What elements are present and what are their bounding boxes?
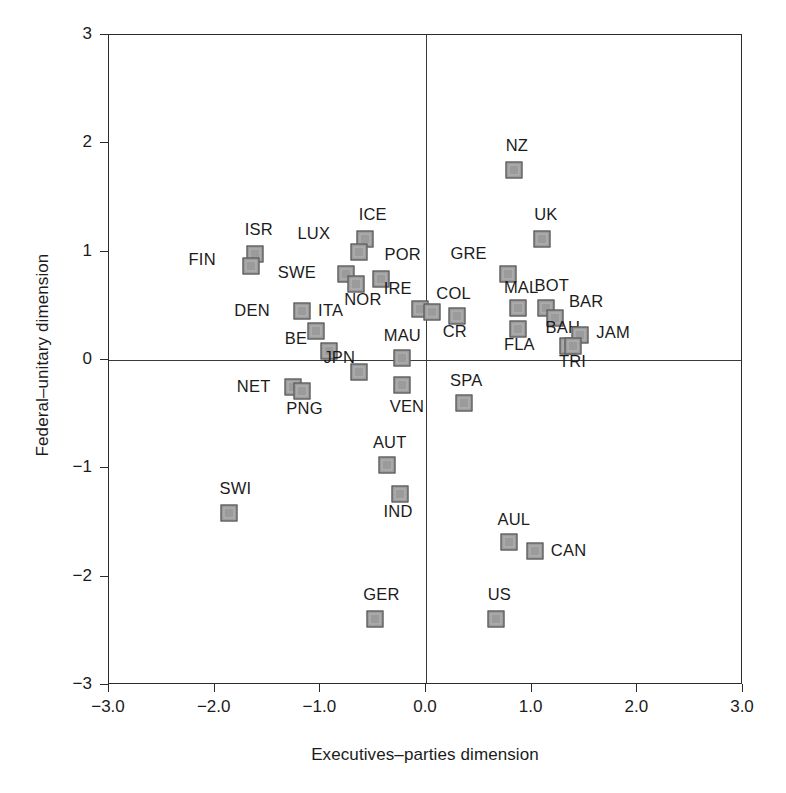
data-point-label: SPA — [450, 371, 482, 390]
data-point-marker — [456, 395, 473, 412]
x-axis-tick — [108, 684, 109, 692]
y-axis-tick-label: 3 — [32, 24, 92, 44]
data-point-label: JAM — [596, 323, 630, 342]
data-point-label: CR — [443, 322, 467, 341]
x-axis-tick — [742, 684, 743, 692]
data-point-label: NZ — [506, 136, 528, 155]
y-axis-tick — [100, 34, 108, 35]
data-point-label: PNG — [286, 399, 322, 418]
zero-line-vertical — [426, 35, 427, 683]
data-point-label: CAN — [551, 541, 586, 560]
data-point-marker — [242, 257, 259, 274]
data-point-marker — [487, 610, 504, 627]
data-point-label: DEN — [234, 301, 269, 320]
plot-area: NZUKICEISRFINLUXPORSWEGRENORDENITAMALBOT… — [108, 34, 742, 684]
x-axis-tick-label: 1.0 — [496, 697, 566, 717]
x-axis-tick-label: −2.0 — [179, 697, 249, 717]
data-point-label: TRI — [559, 352, 586, 371]
data-point-label: NET — [237, 377, 271, 396]
x-axis-tick-label: 0.0 — [390, 697, 460, 717]
data-point-label: AUL — [497, 510, 530, 529]
data-point-label: SWI — [219, 479, 251, 498]
data-point-label: JPN — [323, 348, 355, 367]
data-point-label: IRE — [384, 279, 412, 298]
data-point-marker — [534, 230, 551, 247]
data-point-marker — [378, 457, 395, 474]
data-point-label: UK — [534, 205, 557, 224]
x-axis-title: Executives–parties dimension — [108, 745, 742, 765]
data-point-label: US — [488, 585, 511, 604]
data-point-marker — [391, 486, 408, 503]
data-point-marker — [308, 322, 325, 339]
data-point-label: BE — [285, 329, 307, 348]
y-axis-tick-label: 1 — [32, 241, 92, 261]
data-point-label: SWE — [278, 263, 316, 282]
data-point-label: FIN — [189, 250, 216, 269]
data-point-label: NOR — [344, 290, 381, 309]
x-axis-tick — [531, 684, 532, 692]
data-point-marker — [221, 504, 238, 521]
y-axis-tick — [100, 359, 108, 360]
data-point-label: MAL — [504, 278, 539, 297]
data-point-label: POR — [385, 245, 421, 264]
data-point-marker — [424, 304, 441, 321]
data-point-label: ITA — [318, 301, 343, 320]
x-axis-tick-label: −1.0 — [284, 697, 354, 717]
y-axis-tick-label: 0 — [32, 349, 92, 369]
zero-line-horizontal — [109, 360, 741, 361]
data-point-label: BOT — [534, 276, 569, 295]
y-axis-tick — [100, 467, 108, 468]
data-point-marker — [294, 303, 311, 320]
data-point-label: ICE — [359, 205, 387, 224]
data-point-label: VEN — [390, 397, 425, 416]
y-axis-tick-label: −3 — [32, 674, 92, 694]
scatter-plot-figure: Federal–unitary dimension Executives–par… — [0, 0, 786, 793]
data-point-label: IND — [384, 502, 413, 521]
data-point-marker — [367, 610, 384, 627]
y-axis-tick-label: −1 — [32, 457, 92, 477]
data-point-marker — [294, 383, 311, 400]
y-axis-tick — [100, 251, 108, 252]
x-axis-tick — [636, 684, 637, 692]
y-axis-tick-label: −2 — [32, 566, 92, 586]
data-point-marker — [509, 300, 526, 317]
data-point-label: BAR — [569, 292, 604, 311]
x-axis-tick — [319, 684, 320, 692]
data-point-marker — [393, 376, 410, 393]
data-point-label: FLA — [504, 335, 535, 354]
data-point-marker — [351, 243, 368, 260]
y-axis-tick-label: 2 — [32, 132, 92, 152]
data-point-marker — [526, 542, 543, 559]
data-point-label: MAU — [384, 326, 421, 345]
data-point-label: LUX — [297, 224, 330, 243]
data-point-label: AUT — [373, 433, 407, 452]
x-axis-tick — [425, 684, 426, 692]
y-axis-tick — [100, 142, 108, 143]
x-axis-tick-label: 2.0 — [601, 697, 671, 717]
data-point-marker — [393, 349, 410, 366]
x-axis-tick-label: −3.0 — [73, 697, 143, 717]
data-point-marker — [505, 162, 522, 179]
y-axis-tick — [100, 684, 108, 685]
x-axis-tick — [214, 684, 215, 692]
x-axis-tick-label: 3.0 — [707, 697, 777, 717]
data-point-label: GER — [363, 585, 399, 604]
data-point-label: GRE — [450, 244, 486, 263]
y-axis-tick — [100, 576, 108, 577]
data-point-marker — [501, 534, 518, 551]
data-point-label: COL — [436, 284, 471, 303]
data-point-label: ISR — [245, 220, 273, 239]
